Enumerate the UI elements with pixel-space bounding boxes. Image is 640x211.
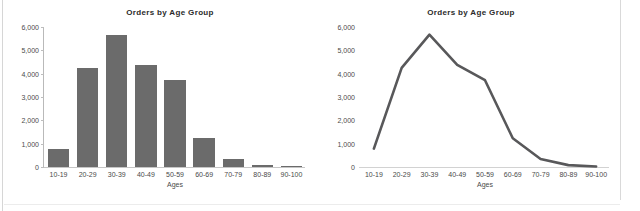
bar-40-49[interactable]: [135, 65, 156, 167]
bar-column[interactable]: [131, 27, 160, 167]
bar-10-19[interactable]: [48, 149, 69, 167]
bar-20-29[interactable]: [77, 68, 98, 167]
y-tick-label: 6,000: [21, 24, 39, 31]
x-tick-label: 90-100: [582, 171, 610, 178]
bar-chart-x-axis-title: Ages: [44, 181, 306, 188]
line-chart-title: Orders by Age Group: [324, 8, 618, 17]
y-tick-label: 1,000: [337, 140, 355, 147]
x-tick-label: 70-79: [219, 171, 248, 178]
bottom-divider: [4, 204, 620, 205]
line-path[interactable]: [374, 35, 596, 167]
y-tick-mark: [41, 167, 44, 168]
y-tick-label: 3,000: [21, 94, 39, 101]
x-tick-label: 10-19: [44, 171, 73, 178]
x-tick-label: 90-100: [277, 171, 306, 178]
left-edge-divider: [2, 0, 3, 211]
y-tick-label: 5,000: [21, 47, 39, 54]
y-tick-mark: [41, 74, 44, 75]
bar-50-59[interactable]: [164, 80, 185, 167]
bar-80-89[interactable]: [252, 165, 273, 167]
bar-chart-x-axis: [43, 167, 305, 168]
bar-column[interactable]: [73, 27, 102, 167]
bar-chart-panel: Orders by Age Group 10-1920-2930-3940-49…: [4, 0, 318, 200]
y-tick-label: 0: [351, 164, 355, 171]
x-tick-label: 40-49: [443, 171, 471, 178]
bar-30-39[interactable]: [106, 35, 127, 167]
line-series: [360, 27, 610, 167]
x-tick-label: 10-19: [360, 171, 388, 178]
x-tick-label: 30-39: [416, 171, 444, 178]
bar-60-69[interactable]: [193, 138, 214, 167]
y-tick-mark: [41, 120, 44, 121]
y-tick-mark: [41, 27, 44, 28]
line-chart-x-axis-title: Ages: [360, 181, 610, 188]
x-tick-label: 30-39: [102, 171, 131, 178]
bar-column[interactable]: [248, 27, 277, 167]
y-tick-label: 3,000: [337, 94, 355, 101]
line-chart-x-axis: [359, 167, 609, 168]
line-chart-x-tick-labels: 10-1920-2930-3940-4950-5960-6970-7980-89…: [360, 171, 610, 178]
x-tick-label: 70-79: [527, 171, 555, 178]
y-tick-label: 2,000: [21, 117, 39, 124]
y-tick-label: 1,000: [21, 140, 39, 147]
bar-chart-title: Orders by Age Group: [4, 8, 318, 17]
y-tick-label: 4,000: [21, 70, 39, 77]
y-tick-label: 0: [35, 164, 39, 171]
x-tick-label: 60-69: [499, 171, 527, 178]
y-tick-mark: [41, 50, 44, 51]
y-tick-mark: [41, 144, 44, 145]
y-tick-label: 2,000: [337, 117, 355, 124]
bar-column[interactable]: [277, 27, 306, 167]
line-chart-plot-area: 10-1920-2930-3940-4950-5960-6970-7980-89…: [360, 27, 610, 167]
y-tick-label: 5,000: [337, 47, 355, 54]
x-tick-label: 60-69: [190, 171, 219, 178]
x-tick-label: 40-49: [131, 171, 160, 178]
x-tick-label: 50-59: [471, 171, 499, 178]
bar-column[interactable]: [190, 27, 219, 167]
x-tick-label: 80-89: [248, 171, 277, 178]
y-tick-mark: [41, 97, 44, 98]
bar-series: [44, 27, 306, 167]
bar-chart-x-tick-labels: 10-1920-2930-3940-4950-5960-6970-7980-89…: [44, 171, 306, 178]
x-tick-label: 80-89: [554, 171, 582, 178]
bar-90-100[interactable]: [281, 166, 302, 167]
charts-page: Orders by Age Group 10-1920-2930-3940-49…: [0, 0, 640, 211]
x-tick-label: 20-29: [73, 171, 102, 178]
y-tick-label: 6,000: [337, 24, 355, 31]
x-tick-label: 20-29: [388, 171, 416, 178]
bar-column[interactable]: [160, 27, 189, 167]
y-tick-label: 4,000: [337, 70, 355, 77]
bar-chart-plot-area: 10-1920-2930-3940-4950-5960-6970-7980-89…: [44, 27, 306, 167]
bar-column[interactable]: [219, 27, 248, 167]
x-tick-label: 50-59: [160, 171, 189, 178]
bar-column[interactable]: [44, 27, 73, 167]
line-chart-panel: Orders by Age Group 10-1920-2930-3940-49…: [324, 0, 618, 200]
bar-70-79[interactable]: [223, 159, 244, 167]
bar-column[interactable]: [102, 27, 131, 167]
right-edge-divider: [620, 0, 621, 200]
